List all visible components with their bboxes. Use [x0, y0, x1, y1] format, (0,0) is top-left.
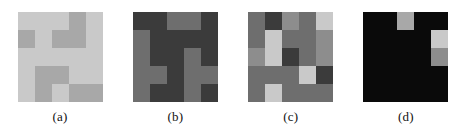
heatmap-cell [52, 48, 69, 66]
heatmap-cell [316, 48, 333, 66]
heatmap-cell [69, 84, 86, 102]
heatmap-cell [86, 48, 103, 66]
heatmap-cell [201, 66, 218, 84]
heatmap-cell [86, 12, 103, 30]
heatmap-cell [35, 30, 52, 48]
heatmap-cell [414, 66, 431, 84]
heatmap-cell [69, 66, 86, 84]
heatmap-cell [18, 12, 35, 30]
heatmap-cell [184, 48, 201, 66]
heatmap-cell [248, 12, 265, 30]
heatmap-cell [414, 48, 431, 66]
heatmap-cell [201, 84, 218, 102]
heatmap-cell [431, 30, 448, 48]
heatmap-cell [133, 12, 150, 30]
heatmap-cell [380, 12, 397, 30]
heatmap-cell [35, 66, 52, 84]
heatmap-cell [184, 84, 201, 102]
heatmap-cell [201, 48, 218, 66]
heatmap-cell [86, 66, 103, 84]
heatmap-cell [133, 48, 150, 66]
heatmap-cell [265, 48, 282, 66]
heatmap-cell [265, 12, 282, 30]
heatmap-cell [167, 48, 184, 66]
heatmap-cell [133, 30, 150, 48]
heatmap-cell [69, 48, 86, 66]
heatmap-cell [299, 30, 316, 48]
heatmap-cell [431, 84, 448, 102]
heatmap-cell [167, 12, 184, 30]
panel-caption-c: (c) [283, 109, 298, 125]
heatmap-cell [282, 84, 299, 102]
heatmap-cell [18, 48, 35, 66]
heatmap-cell [265, 84, 282, 102]
heatmap-cell [52, 66, 69, 84]
heatmap-cell [380, 48, 397, 66]
heatmap-cell [414, 84, 431, 102]
heatmap-cell [431, 12, 448, 30]
heatmap-cell [201, 12, 218, 30]
heatmap-cell [248, 48, 265, 66]
heatmap-cell [18, 66, 35, 84]
panel-caption-b: (b) [167, 109, 183, 125]
heatmap-grid-b [133, 12, 218, 102]
heatmap-grid-a [18, 12, 103, 102]
heatmap-cell [414, 12, 431, 30]
heatmap-grid-d [363, 12, 448, 102]
heatmap-cell [431, 48, 448, 66]
heatmap-cell [150, 66, 167, 84]
heatmap-cell [184, 30, 201, 48]
heatmap-cell [150, 12, 167, 30]
panel-group: (a) (b) (c) (d) [0, 0, 466, 136]
heatmap-cell [52, 30, 69, 48]
heatmap-cell [150, 84, 167, 102]
heatmap-cell [52, 12, 69, 30]
heatmap-cell [397, 30, 414, 48]
heatmap-cell [380, 84, 397, 102]
heatmap-cell [52, 84, 69, 102]
heatmap-cell [35, 12, 52, 30]
panel-a: (a) [8, 0, 112, 125]
heatmap-cell [69, 12, 86, 30]
heatmap-cell [265, 30, 282, 48]
heatmap-cell [380, 30, 397, 48]
heatmap-cell [282, 66, 299, 84]
panel-d: (d) [354, 0, 458, 125]
figure-panel-grid: (a) (b) (c) (d) [0, 0, 466, 136]
heatmap-cell [363, 48, 380, 66]
heatmap-cell [299, 84, 316, 102]
heatmap-cell [86, 30, 103, 48]
heatmap-cell [431, 66, 448, 84]
panel-c: (c) [239, 0, 343, 125]
heatmap-cell [282, 48, 299, 66]
heatmap-cell [35, 48, 52, 66]
heatmap-cell [69, 30, 86, 48]
heatmap-cell [316, 12, 333, 30]
heatmap-cell [380, 66, 397, 84]
heatmap-cell [86, 84, 103, 102]
heatmap-cell [167, 66, 184, 84]
heatmap-cell [363, 30, 380, 48]
heatmap-cell [397, 12, 414, 30]
heatmap-cell [316, 66, 333, 84]
heatmap-grid-c [248, 12, 333, 102]
heatmap-cell [299, 12, 316, 30]
heatmap-cell [282, 30, 299, 48]
heatmap-cell [397, 48, 414, 66]
heatmap-cell [201, 30, 218, 48]
panel-caption-a: (a) [52, 109, 67, 125]
heatmap-cell [133, 66, 150, 84]
panel-b: (b) [123, 0, 227, 125]
heatmap-cell [167, 30, 184, 48]
heatmap-cell [316, 30, 333, 48]
heatmap-cell [150, 30, 167, 48]
heatmap-cell [299, 66, 316, 84]
heatmap-cell [150, 48, 167, 66]
heatmap-cell [18, 30, 35, 48]
heatmap-cell [282, 12, 299, 30]
heatmap-cell [363, 84, 380, 102]
heatmap-cell [18, 84, 35, 102]
heatmap-cell [248, 30, 265, 48]
heatmap-cell [316, 84, 333, 102]
heatmap-cell [363, 66, 380, 84]
